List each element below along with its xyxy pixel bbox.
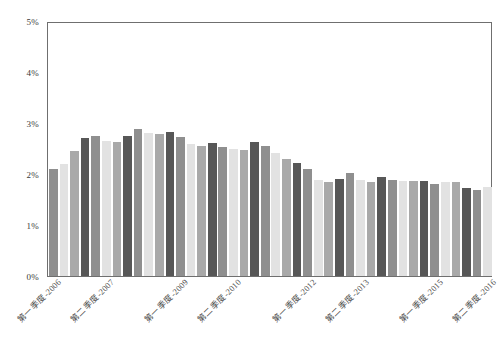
- plot-area: [47, 22, 492, 277]
- x-axis-tick-label: 第二季度-2016: [450, 277, 498, 325]
- x-axis-tick-text: 第一季度-2006: [16, 277, 64, 325]
- bar: [282, 159, 291, 276]
- bar: [49, 169, 58, 276]
- bar: [155, 134, 164, 276]
- bar: [462, 188, 471, 276]
- bar: [250, 142, 259, 276]
- x-axis-tick-label: 第二季度-2013: [323, 277, 371, 325]
- bar: [356, 180, 365, 276]
- bar: [324, 182, 333, 276]
- bar: [388, 180, 397, 276]
- bar: [229, 149, 238, 277]
- x-axis-tick-label: 第二季度-2007: [69, 277, 117, 325]
- x-axis-tick-label: 第二季度-2010: [196, 277, 244, 325]
- bar: [197, 146, 206, 276]
- bar: [293, 163, 302, 276]
- x-axis-tick-text: 第二季度-2013: [323, 277, 371, 325]
- y-axis-tick-label: 4%: [27, 69, 39, 78]
- bar: [187, 144, 196, 276]
- y-axis-tick-label: 2%: [27, 171, 39, 180]
- x-axis-tick-text: 第二季度-2007: [69, 277, 117, 325]
- bar: [123, 136, 132, 276]
- bar: [91, 136, 100, 276]
- bar: [303, 169, 312, 276]
- bar: [144, 133, 153, 276]
- x-axis: 第一季度-2006第二季度-2007第一季度-2009第二季度-2010第一季度…: [0, 277, 500, 350]
- x-axis-tick-label: 第一季度-2012: [270, 277, 318, 325]
- bar: [420, 181, 429, 276]
- y-axis: 0%1%2%3%4%5%: [0, 0, 47, 300]
- bar: [113, 142, 122, 276]
- x-axis-tick-label: 第一季度-2015: [397, 277, 445, 325]
- x-axis-tick-text: 第二季度-2016: [450, 277, 498, 325]
- bar: [166, 132, 175, 276]
- x-axis-tick-label: 第一季度-2006: [16, 277, 64, 325]
- bars-layer: [48, 23, 491, 276]
- bar: [176, 137, 185, 276]
- bar-chart: 0%1%2%3%4%5% 第一季度-2006第二季度-2007第一季度-2009…: [0, 0, 500, 350]
- bar: [377, 177, 386, 276]
- bar: [430, 184, 439, 276]
- x-axis-tick-text: 第一季度-2012: [270, 277, 318, 325]
- x-axis-tick-text: 第一季度-2015: [397, 277, 445, 325]
- bar: [60, 164, 69, 276]
- bar: [473, 190, 482, 276]
- y-axis-tick-label: 1%: [27, 222, 39, 231]
- bar: [102, 141, 111, 276]
- bar: [70, 151, 79, 276]
- bar: [218, 147, 227, 276]
- bar: [261, 146, 270, 276]
- bar: [271, 153, 280, 276]
- bar: [346, 173, 355, 276]
- x-axis-tick-text: 第二季度-2010: [196, 277, 244, 325]
- bar: [134, 129, 143, 276]
- y-axis-tick-label: 3%: [27, 120, 39, 129]
- y-axis-tick-label: 5%: [27, 18, 39, 27]
- x-axis-tick-text: 第一季度-2009: [143, 277, 191, 325]
- bar: [409, 181, 418, 276]
- bar: [81, 138, 90, 276]
- x-axis-tick-label: 第一季度-2009: [143, 277, 191, 325]
- bar: [240, 150, 249, 276]
- bar: [483, 187, 492, 276]
- bar: [208, 143, 217, 276]
- bar: [314, 180, 323, 276]
- bar: [399, 181, 408, 276]
- bar: [335, 179, 344, 276]
- bar: [441, 182, 450, 276]
- bar: [452, 182, 461, 276]
- bar: [367, 182, 376, 276]
